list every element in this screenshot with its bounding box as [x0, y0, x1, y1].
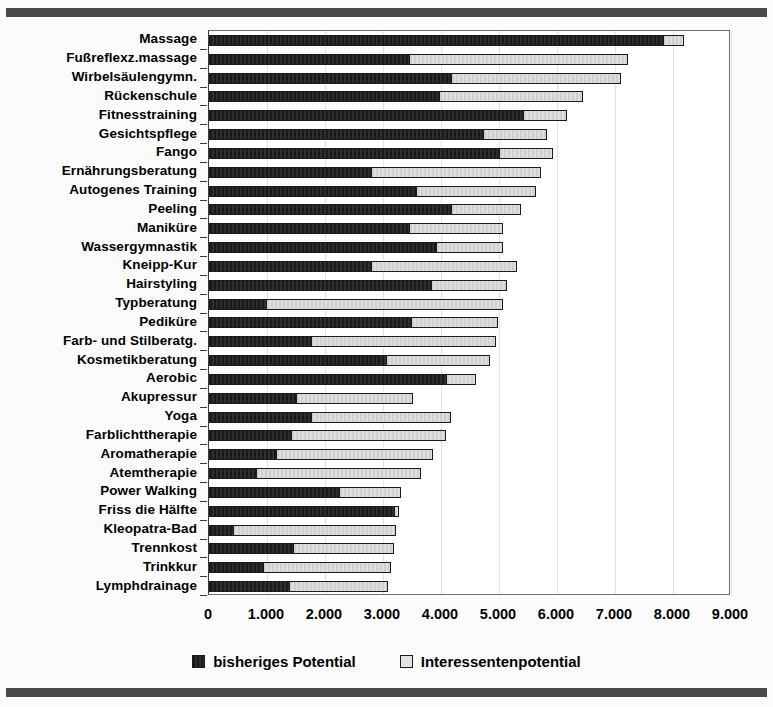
bar-row[interactable] [209, 502, 729, 521]
stacked-bar[interactable] [209, 186, 536, 197]
bar-row[interactable] [209, 182, 729, 201]
bar-row[interactable] [209, 408, 729, 427]
stacked-bar[interactable] [209, 280, 507, 291]
bar-segment-bisheriges-potential[interactable] [209, 186, 416, 197]
bar-segment-bisheriges-potential[interactable] [209, 487, 339, 498]
bar-segment-interessentenpotential[interactable] [311, 412, 451, 423]
bar-segment-interessentenpotential[interactable] [483, 129, 547, 140]
stacked-bar[interactable] [209, 299, 503, 310]
bar-row[interactable] [209, 427, 729, 446]
stacked-bar[interactable] [209, 430, 446, 441]
bar-row[interactable] [209, 540, 729, 559]
bar-segment-bisheriges-potential[interactable] [209, 280, 431, 291]
stacked-bar[interactable] [209, 506, 399, 517]
bar-row[interactable] [209, 88, 729, 107]
stacked-bar[interactable] [209, 73, 621, 84]
bar-row[interactable] [209, 106, 729, 125]
stacked-bar[interactable] [209, 393, 413, 404]
bar-segment-interessentenpotential[interactable] [523, 110, 567, 121]
bar-row[interactable] [209, 69, 729, 88]
bar-segment-interessentenpotential[interactable] [289, 581, 388, 592]
bar-segment-interessentenpotential[interactable] [339, 487, 401, 498]
bar-segment-bisheriges-potential[interactable] [209, 54, 409, 65]
stacked-bar[interactable] [209, 581, 388, 592]
bar-segment-bisheriges-potential[interactable] [209, 167, 371, 178]
bar-row[interactable] [209, 351, 729, 370]
bar-segment-interessentenpotential[interactable] [394, 506, 399, 517]
stacked-bar[interactable] [209, 204, 521, 215]
bar-row[interactable] [209, 445, 729, 464]
bar-segment-interessentenpotential[interactable] [276, 449, 433, 460]
stacked-bar[interactable] [209, 129, 547, 140]
stacked-bar[interactable] [209, 110, 567, 121]
stacked-bar[interactable] [209, 525, 396, 536]
bar-segment-interessentenpotential[interactable] [233, 525, 396, 536]
bar-segment-interessentenpotential[interactable] [386, 355, 490, 366]
stacked-bar[interactable] [209, 336, 496, 347]
bar-row[interactable] [209, 558, 729, 577]
bar-row[interactable] [209, 276, 729, 295]
bar-segment-interessentenpotential[interactable] [416, 186, 536, 197]
bar-row[interactable] [209, 389, 729, 408]
bar-segment-interessentenpotential[interactable] [663, 35, 684, 46]
bar-row[interactable] [209, 125, 729, 144]
bar-row[interactable] [209, 314, 729, 333]
bar-row[interactable] [209, 219, 729, 238]
bar-segment-bisheriges-potential[interactable] [209, 336, 311, 347]
stacked-bar[interactable] [209, 374, 476, 385]
bar-segment-bisheriges-potential[interactable] [209, 91, 439, 102]
bar-segment-interessentenpotential[interactable] [291, 430, 446, 441]
bar-segment-interessentenpotential[interactable] [296, 393, 413, 404]
bar-segment-bisheriges-potential[interactable] [209, 449, 276, 460]
bar-segment-interessentenpotential[interactable] [371, 167, 542, 178]
stacked-bar[interactable] [209, 35, 684, 46]
stacked-bar[interactable] [209, 468, 421, 479]
bar-segment-bisheriges-potential[interactable] [209, 148, 499, 159]
stacked-bar[interactable] [209, 261, 517, 272]
bar-segment-interessentenpotential[interactable] [409, 223, 503, 234]
bar-segment-interessentenpotential[interactable] [266, 299, 503, 310]
bar-row[interactable] [209, 144, 729, 163]
bar-segment-bisheriges-potential[interactable] [209, 374, 446, 385]
bar-segment-bisheriges-potential[interactable] [209, 525, 233, 536]
bar-row[interactable] [209, 31, 729, 50]
stacked-bar[interactable] [209, 223, 503, 234]
bar-row[interactable] [209, 257, 729, 276]
bar-segment-bisheriges-potential[interactable] [209, 562, 263, 573]
stacked-bar[interactable] [209, 562, 391, 573]
bar-segment-interessentenpotential[interactable] [263, 562, 391, 573]
bar-segment-bisheriges-potential[interactable] [209, 468, 256, 479]
bar-segment-interessentenpotential[interactable] [293, 543, 394, 554]
bar-row[interactable] [209, 370, 729, 389]
bar-segment-interessentenpotential[interactable] [409, 54, 628, 65]
bar-segment-bisheriges-potential[interactable] [209, 261, 371, 272]
bar-segment-bisheriges-potential[interactable] [209, 242, 436, 253]
bar-segment-bisheriges-potential[interactable] [209, 317, 411, 328]
bar-segment-interessentenpotential[interactable] [371, 261, 517, 272]
bar-row[interactable] [209, 577, 729, 596]
bar-segment-bisheriges-potential[interactable] [209, 543, 293, 554]
bar-segment-interessentenpotential[interactable] [436, 242, 503, 253]
bar-segment-interessentenpotential[interactable] [451, 73, 621, 84]
bar-segment-interessentenpotential[interactable] [411, 317, 498, 328]
stacked-bar[interactable] [209, 54, 628, 65]
bar-segment-interessentenpotential[interactable] [311, 336, 496, 347]
bar-row[interactable] [209, 238, 729, 257]
stacked-bar[interactable] [209, 91, 583, 102]
bar-segment-interessentenpotential[interactable] [256, 468, 421, 479]
bar-segment-bisheriges-potential[interactable] [209, 506, 394, 517]
bar-segment-bisheriges-potential[interactable] [209, 412, 311, 423]
stacked-bar[interactable] [209, 449, 433, 460]
stacked-bar[interactable] [209, 487, 401, 498]
bar-row[interactable] [209, 483, 729, 502]
bar-segment-bisheriges-potential[interactable] [209, 35, 663, 46]
stacked-bar[interactable] [209, 543, 394, 554]
bar-segment-bisheriges-potential[interactable] [209, 393, 296, 404]
bar-row[interactable] [209, 332, 729, 351]
bar-segment-bisheriges-potential[interactable] [209, 129, 483, 140]
bar-row[interactable] [209, 50, 729, 69]
bar-row[interactable] [209, 295, 729, 314]
stacked-bar[interactable] [209, 148, 553, 159]
bar-segment-bisheriges-potential[interactable] [209, 223, 409, 234]
bar-row[interactable] [209, 163, 729, 182]
